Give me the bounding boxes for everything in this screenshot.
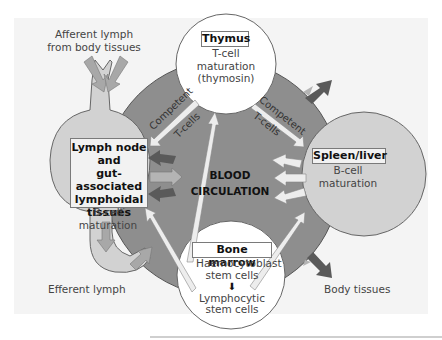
lymph-node-description: B-cell maturation <box>78 206 138 231</box>
efferent-lymph-label: Efferent lymph <box>48 283 126 296</box>
blood-line-1: BLOOD <box>190 167 270 183</box>
bone-marrow-title: Bone marrow <box>192 242 272 258</box>
afferent-lymph-label: Afferent lymph from body tissues <box>44 28 144 53</box>
blood-line-2: CIRCULATION <box>190 183 270 199</box>
lymph-title-1: Lymph node <box>71 141 147 154</box>
bone-marrow-description: Haemocytoblast stem cells ⬇ Lymphocytic … <box>196 258 268 316</box>
spleen-line-2: maturation <box>318 177 378 190</box>
bone-line-2: stem cells <box>196 270 268 282</box>
thymus-line-2: maturation <box>196 60 256 73</box>
thymus-title: Thymus <box>201 31 249 47</box>
lymph-node-title: Lymph node and gut-associated lymphoidal… <box>70 138 148 208</box>
thymus-line-1: T-cell <box>196 47 256 60</box>
bone-line-4: stem cells <box>196 304 268 316</box>
spleen-liver-title: Spleen/liver <box>312 148 386 164</box>
lymph-sub-1: B-cell <box>78 206 138 219</box>
thymus-description: T-cell maturation (thymosin) <box>196 47 256 85</box>
afferent-line-1: Afferent lymph <box>44 28 144 41</box>
blood-circulation-label: BLOOD CIRCULATION <box>190 167 270 199</box>
lymph-title-4: lymphoidal <box>71 193 147 206</box>
spleen-description: B-cell maturation <box>318 164 378 189</box>
lymph-sub-2: maturation <box>78 219 138 232</box>
down-arrow-icon: ⬇ <box>196 281 268 293</box>
thymus-line-3: (thymosin) <box>196 72 256 85</box>
afferent-line-2: from body tissues <box>44 41 144 54</box>
body-tissues-label: Body tissues <box>324 283 390 296</box>
spleen-line-1: B-cell <box>318 164 378 177</box>
lymph-title-3: gut-associated <box>71 167 147 193</box>
spleen-to-blood-arrows <box>272 154 306 204</box>
bone-line-1: Haemocytoblast <box>196 258 268 270</box>
lymph-title-2: and <box>71 154 147 167</box>
